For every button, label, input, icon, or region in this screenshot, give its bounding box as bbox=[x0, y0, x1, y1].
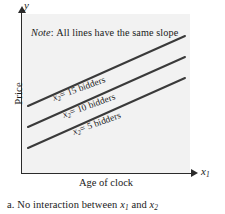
caption-sub-1: 1 bbox=[125, 203, 129, 212]
regression-lines-group bbox=[0, 0, 225, 214]
regression-line-5-bidders bbox=[28, 78, 185, 148]
caption-sub-2: 2 bbox=[154, 203, 158, 212]
line-label-15-value: 15 bbox=[66, 85, 78, 98]
caption-marker: a. bbox=[7, 199, 15, 210]
line-label-10-value: 10 bbox=[76, 102, 88, 115]
caption-text: No interaction between bbox=[17, 199, 117, 210]
figure-caption: a. No interaction between x1 and x2 bbox=[7, 199, 158, 212]
caption-conjunction: and bbox=[131, 199, 146, 210]
figure-panel: y x1 Price Age of clock Note: All lines … bbox=[0, 0, 225, 214]
